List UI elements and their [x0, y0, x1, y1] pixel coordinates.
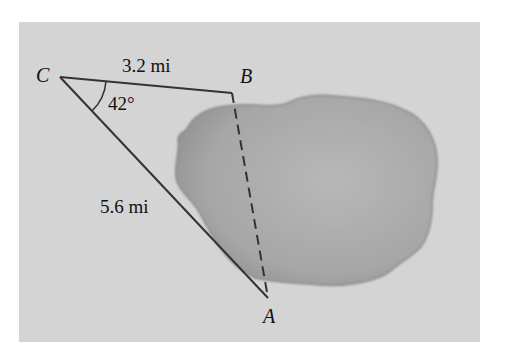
point-label-c: C [36, 65, 49, 85]
side-cb [60, 77, 232, 93]
triangle-lake-diagram [0, 0, 507, 362]
point-label-b: B [240, 66, 252, 86]
point-label-a: A [263, 306, 275, 326]
lake-shape [176, 95, 438, 285]
side-cb-length: 3.2 mi [122, 56, 171, 75]
angle-c-label: 42° [108, 94, 135, 113]
angle-c-arc [92, 81, 106, 111]
side-ca-length: 5.6 mi [100, 197, 149, 216]
